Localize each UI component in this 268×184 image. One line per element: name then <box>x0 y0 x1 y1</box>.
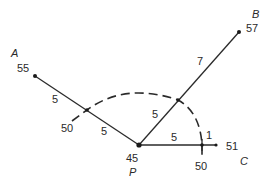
label-C-value: 51 <box>226 140 238 152</box>
label-A-name: A <box>10 47 18 59</box>
label-PB-inner: 5 <box>152 108 158 120</box>
label-arc-PC: 50 <box>195 160 207 172</box>
label-PB-outer: 7 <box>197 55 203 67</box>
label-PC-outer: 1 <box>206 129 212 141</box>
intersection-PA <box>85 108 89 112</box>
label-PC-inner: 5 <box>171 131 177 143</box>
label-PA-outer: 5 <box>52 93 58 105</box>
intersection-PC <box>200 143 204 147</box>
label-C-name: C <box>240 155 248 167</box>
label-B-value: 57 <box>246 22 258 34</box>
label-B-name: B <box>252 8 259 20</box>
label-arc-PA: 50 <box>61 122 73 134</box>
label-A-value: 55 <box>17 62 29 74</box>
point-C-end <box>214 143 217 146</box>
label-PA-inner: 5 <box>101 125 107 137</box>
point-B <box>237 30 241 34</box>
segment-PB <box>139 32 239 145</box>
dashed-arc <box>72 93 202 158</box>
label-P-value: 45 <box>126 152 138 164</box>
point-A <box>33 74 37 78</box>
point-P <box>136 142 141 147</box>
label-P-name: P <box>129 166 137 178</box>
diagram-canvas: A 55 B 57 51 C 45 P 5 5 7 5 5 1 50 50 <box>0 0 268 184</box>
intersection-PB <box>176 98 180 102</box>
